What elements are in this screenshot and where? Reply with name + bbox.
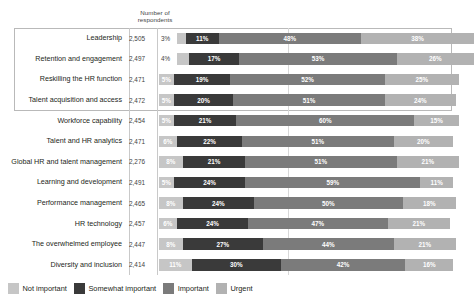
bar-segment-somewhat-important: 24% <box>183 197 254 209</box>
row-respondent-count: 2,471 <box>126 138 156 145</box>
row-category-label: Leadership <box>0 34 126 42</box>
bar-segment-label-not-important: 6% <box>163 220 172 227</box>
row-category-label: Learning and development <box>0 178 126 186</box>
legend-label: Urgent <box>230 284 252 293</box>
bar-segment-label-urgent: 15% <box>430 117 443 124</box>
row-category-label: The overwhelmed employee <box>0 240 126 248</box>
bar-segment-label-important: 44% <box>322 241 335 248</box>
chart-row: Talent and HR analytics2,4716%22%51%20% <box>0 131 466 152</box>
bar-segment-somewhat-important: 17% <box>189 53 239 65</box>
row-respondent-count: 2,465 <box>126 200 156 207</box>
bar-segment-label-not-important: 8% <box>166 200 175 207</box>
chart-row: The overwhelmed employee2,4478%27%44%21% <box>0 234 466 255</box>
stacked-bar: 5%21%60%15% <box>159 115 459 127</box>
bar-segment-label-somewhat-important: 22% <box>203 138 216 145</box>
bar-segment-label-somewhat-important: 24% <box>212 200 225 207</box>
respondents-header-line2: respondents <box>128 16 182 23</box>
bar-segment-important: 42% <box>281 259 406 271</box>
row-bar-track: 8%21%51%21% <box>159 156 454 168</box>
legend-swatch-icon <box>74 283 85 294</box>
row-respondent-count: 2,472 <box>126 97 156 104</box>
chart-row: HR technology2,4576%24%47%21% <box>0 213 466 234</box>
bar-segment-label-somewhat-important: 20% <box>197 97 210 104</box>
bar-segment-label-important: 59% <box>326 179 339 186</box>
bar-segment-label-not-important: 6% <box>163 138 172 145</box>
bar-segment-important: 59% <box>245 177 420 189</box>
row-bar-track: 11%30%42%16% <box>159 259 454 271</box>
legend-label: Important <box>178 284 209 293</box>
stacked-bar: 17%53%26% <box>177 53 474 65</box>
bar-segment-urgent: 24% <box>385 94 456 106</box>
bar-segment-important: 51% <box>245 156 396 168</box>
legend-item[interactable]: Not important <box>8 283 67 294</box>
bar-segment-label-urgent: 16% <box>423 261 436 268</box>
row-respondent-count: 2,454 <box>126 117 156 124</box>
bar-segment-urgent: 38% <box>361 33 474 45</box>
bar-segment-label-important: 52% <box>301 76 314 83</box>
bar-segment-label-important: 53% <box>312 55 325 62</box>
bar-segment-label-urgent: 11% <box>431 179 443 186</box>
row-category-label: Talent acquisition and access <box>0 96 126 104</box>
row-bar-track: 5%24%59%11% <box>159 177 454 189</box>
bar-segment-label-urgent: 18% <box>423 200 436 207</box>
stacked-bar: 6%22%51%20% <box>159 136 453 148</box>
bar-segment-urgent: 20% <box>394 136 453 148</box>
legend-swatch-icon <box>163 283 174 294</box>
stacked-bar: 8%27%44%21% <box>159 238 456 250</box>
row-bar-track: 5%21%60%15% <box>159 115 454 127</box>
respondents-column-header: Number of respondents <box>128 9 182 24</box>
bar-segment-label-somewhat-important: 21% <box>199 117 212 124</box>
legend-label: Somewhat important <box>88 284 156 293</box>
bar-segment-somewhat-important: 21% <box>174 115 236 127</box>
bar-segment-label-not-important: 3% <box>161 33 170 45</box>
legend-label: Not important <box>23 284 67 293</box>
bar-segment-label-not-important: 8% <box>166 241 175 248</box>
legend-swatch-icon <box>8 283 19 294</box>
chart-row: Learning and development2,4915%24%59%11% <box>0 172 466 193</box>
bar-segment-important: 50% <box>254 197 403 209</box>
stacked-bar: 11%48%38% <box>177 33 474 45</box>
bar-segment-somewhat-important: 21% <box>183 156 245 168</box>
bar-segment-label-urgent: 24% <box>414 97 427 104</box>
row-respondent-count: 2,497 <box>126 55 156 62</box>
row-bar-track: 4%17%53%26% <box>159 53 454 65</box>
bar-segment-important: 52% <box>230 74 384 86</box>
respondents-header-line1: Number of <box>128 9 182 16</box>
row-category-label: Global HR and talent management <box>0 158 126 166</box>
bar-segment-not-important: 6% <box>159 136 177 148</box>
bar-segment-label-urgent: 21% <box>418 241 431 248</box>
bar-segment-label-important: 42% <box>337 261 350 268</box>
row-respondent-count: 2,491 <box>126 179 156 186</box>
row-respondent-count: 2,505 <box>126 35 156 42</box>
row-respondent-count: 2,457 <box>126 220 156 227</box>
bar-segment-label-not-important: 11% <box>169 261 181 268</box>
row-bar-track: 6%24%47%21% <box>159 218 454 230</box>
bar-segment-not-important: 5% <box>159 177 174 189</box>
row-category-label: Workforce capability <box>0 117 126 125</box>
bar-segment-important: 51% <box>242 136 393 148</box>
bar-segment-not-important: 11% <box>159 259 192 271</box>
bar-segment-label-not-important: 5% <box>162 76 171 83</box>
bar-segment-urgent: 21% <box>388 218 450 230</box>
row-respondent-count: 2,471 <box>126 76 156 83</box>
stacked-bar: 5%19%52%25% <box>159 74 459 86</box>
chart-row: Retention and engagement2,4974%17%53%26% <box>0 49 466 70</box>
row-bar-track: 5%19%52%25% <box>159 74 454 86</box>
bar-segment-urgent: 26% <box>397 53 474 65</box>
legend-item[interactable]: Important <box>163 283 209 294</box>
legend-item[interactable]: Somewhat important <box>74 283 156 294</box>
bar-segment-urgent: 21% <box>394 238 456 250</box>
bar-segment-somewhat-important: 20% <box>174 94 233 106</box>
legend-item[interactable]: Urgent <box>216 283 253 294</box>
bar-segment-important: 47% <box>248 218 388 230</box>
bar-segment-label-not-important: 5% <box>162 179 171 186</box>
bar-segment-not-important: 5% <box>159 74 174 86</box>
chart-rows: Leadership2,5053%11%48%38%Retention and … <box>0 28 466 275</box>
bar-segment-label-important: 47% <box>312 220 325 227</box>
row-respondent-count: 2,447 <box>126 241 156 248</box>
row-respondent-count: 2,276 <box>126 158 156 165</box>
bar-segment-label-somewhat-important: 19% <box>196 76 209 83</box>
row-category-label: Reskilling the HR function <box>0 75 126 83</box>
bar-segment-label-not-important: 5% <box>162 97 171 104</box>
